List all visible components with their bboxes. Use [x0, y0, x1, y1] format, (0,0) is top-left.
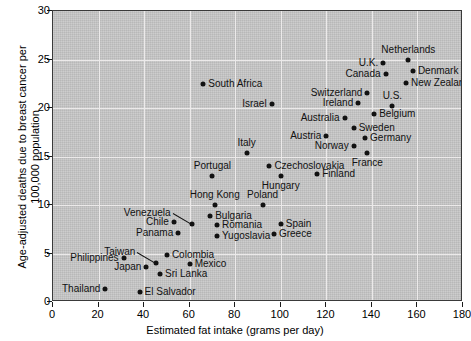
point-label-japan: Japan: [114, 262, 141, 272]
data-point-sweden: [351, 126, 356, 131]
x-tick-mark: [52, 302, 53, 307]
x-tick-label: 100: [271, 308, 289, 320]
x-tick-label: 40: [137, 308, 149, 320]
point-label-australia: Australia: [301, 113, 340, 123]
data-point-ireland: [356, 101, 361, 106]
data-point-netherlands: [406, 57, 411, 62]
data-point-colombia: [164, 253, 169, 258]
x-tick-mark: [371, 302, 372, 307]
point-label-israel: Israel: [242, 99, 266, 109]
y-tick-label: 0: [16, 295, 50, 307]
data-point-yugoslavia: [215, 234, 220, 239]
x-tick-mark: [98, 302, 99, 307]
x-tick-mark: [280, 302, 281, 307]
gridline-vertical: [326, 11, 327, 300]
data-point-u-k: [381, 61, 386, 66]
point-label-norway: Norway: [315, 141, 349, 151]
gridline-vertical: [281, 11, 282, 300]
point-label-canada: Canada: [346, 69, 381, 79]
point-label-thailand: Thailand: [62, 284, 100, 294]
point-label-south-africa: South Africa: [208, 79, 262, 89]
point-label-belgium: Belgium: [379, 109, 415, 119]
data-point-sri-lanka: [158, 271, 163, 276]
data-point-australia: [342, 115, 347, 120]
gridline-horizontal: [53, 60, 461, 61]
data-point-taiwan: [153, 261, 158, 266]
data-point-czechoslovakia: [267, 164, 272, 169]
data-point-italy: [244, 150, 249, 155]
data-point-venezuela: [189, 222, 194, 227]
data-point-poland: [260, 203, 265, 208]
data-point-norway: [351, 143, 356, 148]
gridline-horizontal: [53, 205, 461, 206]
x-tick-label: 60: [183, 308, 195, 320]
point-label-taiwan: Taiwan: [104, 247, 135, 257]
data-point-finland: [315, 171, 320, 176]
data-point-chile: [171, 220, 176, 225]
data-point-switzerland: [365, 91, 370, 96]
x-tick-label: 140: [362, 308, 380, 320]
data-point-israel: [269, 102, 274, 107]
x-tick-mark: [143, 302, 144, 307]
data-point-bulgaria: [208, 213, 213, 218]
x-axis-title: Estimated fat intake (grams per day): [0, 324, 470, 336]
x-tick-label: 0: [49, 308, 55, 320]
x-tick-mark: [325, 302, 326, 307]
data-point-germany: [363, 136, 368, 141]
x-tick-mark: [234, 302, 235, 307]
x-tick-label: 20: [91, 308, 103, 320]
data-point-japan: [144, 265, 149, 270]
point-label-portugal: Portugal: [194, 161, 231, 171]
x-tick-label: 180: [453, 308, 471, 320]
data-point-hong-kong: [212, 203, 217, 208]
point-label-ireland: Ireland: [323, 98, 354, 108]
data-point-thailand: [103, 287, 108, 292]
data-point-south-africa: [201, 81, 206, 86]
point-label-sri-lanka: Sri Lanka: [165, 269, 207, 279]
gridline-horizontal: [53, 157, 461, 158]
point-label-greece: Greece: [279, 229, 312, 239]
point-label-italy: Italy: [237, 138, 255, 148]
data-point-greece: [271, 232, 276, 237]
data-point-el-salvador: [137, 290, 142, 295]
data-point-canada: [383, 72, 388, 77]
data-point-mexico: [187, 262, 192, 267]
point-label-netherlands: Netherlands: [381, 45, 435, 55]
data-point-france: [365, 150, 370, 155]
point-label-hong-kong: Hong Kong: [190, 190, 240, 200]
data-point-new-zealand: [404, 80, 409, 85]
y-axis-title: Age-adjusted deaths due to breast cancer…: [16, 32, 42, 282]
point-label-u-s: U.S.: [383, 91, 402, 101]
point-label-finland: Finland: [322, 169, 355, 179]
x-tick-mark: [189, 302, 190, 307]
point-label-poland: Poland: [247, 190, 278, 200]
point-label-el-salvador: El Salvador: [145, 287, 196, 297]
point-label-chile: Chile: [146, 217, 169, 227]
x-tick-label: 80: [228, 308, 240, 320]
point-label-new-zealand: New Zealand: [411, 78, 462, 88]
x-tick-mark: [462, 302, 463, 307]
data-point-belgium: [372, 111, 377, 116]
point-label-france: France: [352, 158, 383, 168]
gridline-vertical: [235, 11, 236, 300]
data-point-panama: [176, 231, 181, 236]
point-label-romania: Romania: [222, 220, 262, 230]
point-label-germany: Germany: [370, 133, 411, 143]
point-label-panama: Panama: [136, 228, 173, 238]
data-point-denmark: [410, 69, 415, 74]
x-tick-label: 120: [316, 308, 334, 320]
data-point-spain: [278, 222, 283, 227]
x-tick-mark: [416, 302, 417, 307]
point-label-u-k: U.K.: [359, 58, 378, 68]
data-point-austria: [324, 134, 329, 139]
data-point-romania: [215, 223, 220, 228]
gridline-vertical: [372, 11, 373, 300]
y-tick-label: 30: [16, 4, 50, 16]
x-tick-label: 160: [407, 308, 425, 320]
point-label-yugoslavia: Yugoslavia: [222, 231, 270, 241]
data-point-hungary: [278, 173, 283, 178]
plot-panel: South AfricaIsraelNetherlandsU.K.Denmark…: [52, 10, 462, 301]
point-label-denmark: Denmark: [418, 66, 459, 76]
data-point-portugal: [210, 173, 215, 178]
